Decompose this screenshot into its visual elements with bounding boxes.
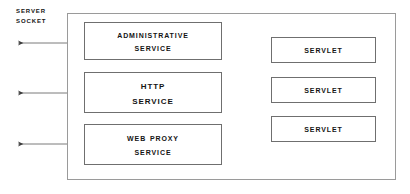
administrative-service-label-line2: Service xyxy=(135,41,172,54)
servlet-label-3: Servlet xyxy=(304,123,342,136)
web-proxy-service-label-line1: Web Proxy xyxy=(127,131,179,144)
http-service-node[interactable]: HTTP Service xyxy=(84,72,222,113)
servlet-node-2[interactable]: Servlet xyxy=(271,77,376,103)
web-proxy-service-label-line2: Service xyxy=(135,145,172,158)
servlet-node-3[interactable]: Servlet xyxy=(271,116,376,142)
administrative-service-label-line1: Administrative xyxy=(117,28,189,41)
administrative-service-node[interactable]: Administrative Service xyxy=(84,22,222,60)
servlet-label-2: Servlet xyxy=(304,84,342,97)
http-service-label-line1: HTTP xyxy=(141,78,166,93)
server-socket-label-line1: Server xyxy=(16,6,46,16)
server-socket-label-line2: Socket xyxy=(16,16,46,26)
web-proxy-service-node[interactable]: Web Proxy Service xyxy=(84,124,222,165)
http-service-label-line2: Service xyxy=(132,93,173,108)
diagram-canvas: Server Socket Administrative Service HTT… xyxy=(0,0,410,194)
server-socket-label: Server Socket xyxy=(16,6,46,26)
servlet-label-1: Servlet xyxy=(304,44,342,57)
servlet-node-1[interactable]: Servlet xyxy=(271,37,376,63)
